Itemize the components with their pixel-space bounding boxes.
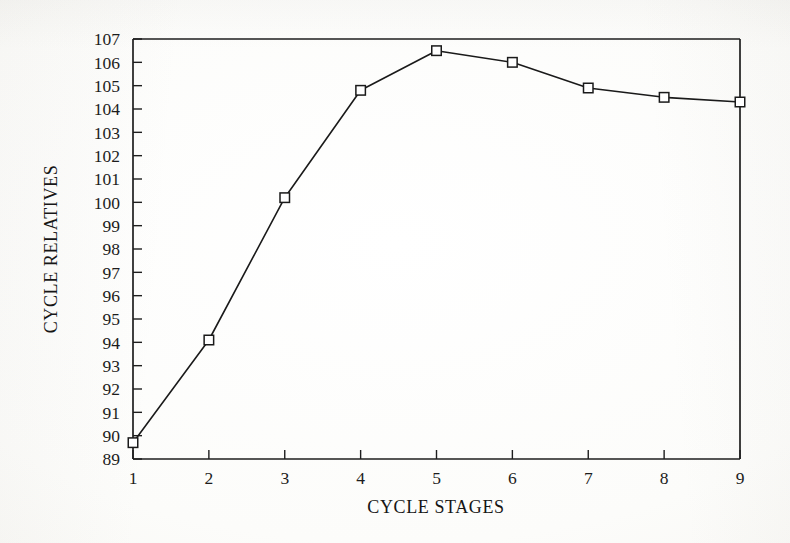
line-chart: 8990919293949596979899100101102103104105…	[0, 0, 790, 543]
data-point-marker	[735, 97, 745, 107]
x-tick-label: 6	[508, 468, 517, 488]
y-tick-label: 104	[94, 99, 121, 119]
x-tick-label: 4	[356, 468, 365, 488]
y-tick-label: 105	[94, 76, 121, 96]
data-point-marker	[204, 335, 214, 345]
data-point-marker	[280, 193, 290, 203]
y-tick-label: 96	[103, 286, 121, 306]
y-tick-label: 102	[94, 146, 120, 166]
x-axis-ticks	[133, 450, 740, 459]
y-tick-label: 89	[103, 449, 121, 469]
y-tick-label: 101	[94, 169, 120, 189]
y-tick-label: 103	[94, 123, 121, 143]
x-tick-label: 5	[432, 468, 441, 488]
data-point-marker	[508, 58, 518, 68]
data-point-marker	[356, 86, 366, 96]
x-tick-label: 2	[205, 468, 214, 488]
y-axis-title: CYCLE RELATIVES	[41, 165, 61, 334]
y-tick-label: 107	[94, 29, 121, 49]
y-tick-label: 90	[103, 426, 121, 446]
data-point-markers	[128, 46, 745, 448]
y-tick-label: 97	[103, 263, 121, 283]
x-axis-tick-labels: 123456789	[129, 468, 745, 488]
chart-plot-svg: 8990919293949596979899100101102103104105…	[0, 0, 790, 543]
y-tick-label: 100	[94, 193, 121, 213]
y-tick-label: 98	[103, 239, 121, 259]
y-tick-label: 95	[103, 309, 121, 329]
x-axis-title: CYCLE STAGES	[367, 497, 504, 517]
y-tick-label: 92	[103, 379, 121, 399]
y-tick-label: 94	[103, 333, 121, 353]
data-point-marker	[584, 83, 594, 93]
data-point-marker	[432, 46, 442, 56]
y-tick-label: 91	[103, 403, 121, 423]
data-point-marker	[659, 93, 669, 103]
plot-frame	[133, 39, 740, 459]
data-series-line	[133, 51, 740, 443]
x-tick-label: 3	[280, 468, 289, 488]
y-tick-label: 93	[103, 356, 121, 376]
x-tick-label: 7	[584, 468, 593, 488]
y-axis-tick-labels: 8990919293949596979899100101102103104105…	[94, 29, 121, 469]
x-tick-label: 9	[736, 468, 745, 488]
y-tick-label: 106	[94, 53, 121, 73]
x-tick-label: 8	[660, 468, 669, 488]
x-tick-label: 1	[129, 468, 138, 488]
data-point-marker	[128, 438, 138, 448]
y-axis-ticks	[133, 39, 142, 459]
y-tick-label: 99	[103, 216, 121, 236]
